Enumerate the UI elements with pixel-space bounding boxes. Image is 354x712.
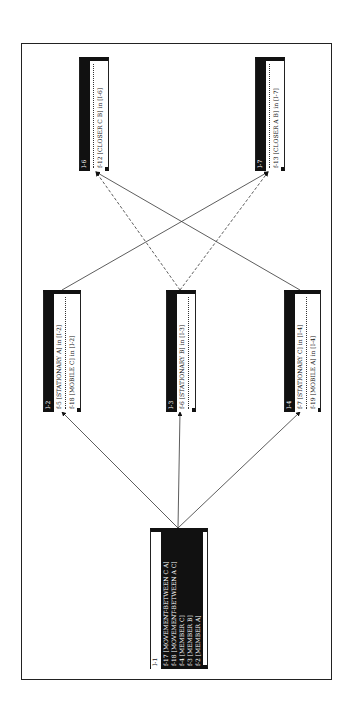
divider (306, 297, 307, 409)
edge-I2-I7 (62, 172, 268, 290)
fact: f-6 [STATIONARY B] in [I-3] (178, 297, 186, 409)
node-id: I-1 (151, 658, 161, 666)
edge-I4-I6 (96, 172, 300, 290)
divider (269, 64, 270, 168)
node-id: I-2 (44, 401, 54, 409)
divider (65, 297, 66, 409)
edge-I1-I3 (178, 412, 180, 528)
node-I-4[interactable]: I-4 f-7 [STATIONARY C] in [I-4] f-19 [MO… (284, 290, 321, 412)
fact: f-19 [MOBILE A] in [I-4] (309, 297, 317, 409)
fact: f-17 [MOVEMENT-BETWEEN C A] (162, 535, 170, 666)
node-id: I-7 (256, 160, 266, 168)
node-id: I-3 (167, 401, 177, 409)
fact: f-7 [STATIONARY C] in [I-4] (296, 297, 304, 409)
node-I-1[interactable]: I-1 f-17 [MOVEMENT-BETWEEN C A] f-18 [MO… (150, 528, 208, 669)
node-I-6[interactable]: I-6 f-12 [CLOSER C B] in [I-6] (79, 57, 109, 171)
fact: f-13 [CLOSER A B] in [I-7] (272, 64, 280, 168)
divider (93, 64, 94, 168)
edge-I3-I7 (180, 172, 268, 290)
fact: f-2 [MEMBER A] (194, 535, 202, 666)
edge-I1-I2 (62, 412, 178, 528)
fact: f-18 [MOVEMENT-BETWEEN A C] (170, 535, 178, 666)
divider (188, 297, 189, 409)
node-id: I-4 (285, 401, 295, 409)
fact: f-3 [MEMBER B] (186, 535, 194, 666)
fact: f-4 [MEMBER C] (178, 535, 186, 666)
edge-I1-I4 (178, 412, 300, 528)
fact: f-5 [STATIONARY A] in [I-2] (55, 297, 63, 409)
node-id: I-6 (80, 160, 90, 168)
node-I-7[interactable]: I-7 f-13 [CLOSER A B] in [I-7] (255, 57, 285, 171)
fact: f-18 [MOBILE C] in [I-2] (68, 297, 76, 409)
edge-I3-I6 (96, 172, 180, 290)
node-I-3[interactable]: I-3 f-6 [STATIONARY B] in [I-3] (166, 290, 196, 412)
fact: f-12 [CLOSER C B] in [I-6] (96, 64, 104, 168)
node-I-2[interactable]: I-2 f-5 [STATIONARY A] in [I-2] f-18 [MO… (43, 290, 81, 412)
